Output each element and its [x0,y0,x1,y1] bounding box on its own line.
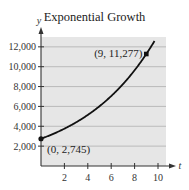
y-tick-label: 4,000 [14,121,37,132]
y-axis-arrow-icon [39,27,44,34]
y-tick-label: 2,000 [14,141,37,152]
x-tick-label: 6 [109,172,114,183]
x-tick-label: 10 [153,172,163,183]
x-tick-label: 2 [62,172,67,183]
x-axis-arrow-icon [169,164,176,169]
y-tick-label: 12,000 [9,41,37,52]
point-label: (9, 11,277) [94,47,143,60]
x-tick-label: 4 [85,172,90,183]
y-tick-label: 10,000 [9,61,37,72]
y-tick-label: 6,000 [14,101,37,112]
x-tick-label: 8 [132,172,137,183]
data-point [38,136,43,141]
y-tick-label: 8,000 [14,81,37,92]
point-label: (0, 2,745) [47,143,90,156]
y-axis-label: y [36,15,42,26]
data-point [144,52,149,57]
chart: 2,0004,0006,0008,00010,00012,000246810yt… [0,0,189,190]
x-axis-label: t [179,160,182,171]
